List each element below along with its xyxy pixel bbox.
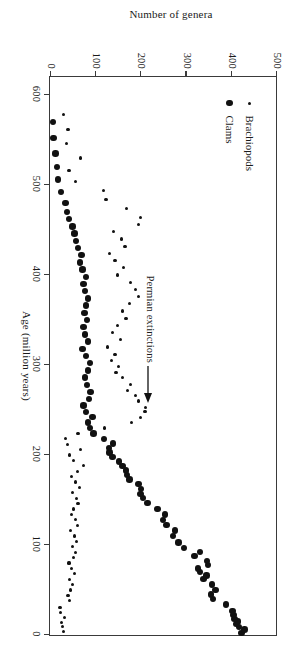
y-tick-label: 300 (181, 52, 192, 68)
legend-item-clams: Clams (221, 100, 241, 171)
data-point-brachiopods (75, 496, 78, 499)
data-point-brachiopods (67, 593, 70, 596)
y-tick-label: 200 (136, 52, 147, 68)
data-point-brachiopods (76, 502, 79, 505)
y-tick (185, 71, 186, 76)
x-tick (44, 274, 49, 275)
data-point-clams (116, 458, 122, 464)
annotation-text: Permian extinctions (145, 275, 156, 363)
data-point-clams (197, 549, 203, 555)
y-tick-label: 500 (272, 52, 283, 68)
x-tick (44, 94, 49, 95)
arrow-right-icon (141, 365, 155, 405)
data-point-clams (80, 324, 86, 330)
legend-label-brachiopods: Brachiopods (244, 115, 256, 171)
data-point-clams (82, 288, 88, 294)
y-axis-label: Number of genera (71, 8, 271, 20)
data-point-brachiopods (104, 197, 107, 200)
data-point-clams (229, 607, 235, 613)
x-axis-label: Age (million years) (21, 76, 33, 636)
data-point-brachiopods (73, 534, 76, 537)
data-point-brachiopods (59, 610, 62, 613)
data-point-clams (154, 505, 160, 511)
scanned-page: 0100200300400500600 0100200300400500 Age… (0, 0, 298, 667)
data-point-brachiopods (74, 480, 77, 483)
data-point-brachiopods (71, 545, 74, 548)
data-point-brachiopods (121, 309, 124, 312)
data-point-clams (82, 374, 88, 380)
data-point-clams (50, 118, 56, 124)
data-point-clams (71, 230, 77, 236)
data-point-clams (85, 338, 91, 344)
data-point-clams (78, 252, 84, 258)
data-point-brachiopods (79, 156, 82, 159)
data-point-brachiopods (117, 365, 120, 368)
data-point-clams (144, 499, 150, 505)
x-tick (44, 454, 49, 455)
data-point-brachiopods (60, 620, 63, 623)
data-point-brachiopods (121, 376, 124, 379)
data-point-clams (85, 295, 91, 301)
data-point-brachiopods (69, 588, 72, 591)
data-point-clams (62, 199, 68, 205)
data-point-brachiopods (70, 475, 73, 478)
data-point-brachiopods (126, 388, 129, 391)
legend-item-brachiopods: Brachiopods (241, 100, 261, 171)
data-point-brachiopods (139, 415, 142, 418)
data-point-brachiopods (110, 358, 113, 361)
y-tick (140, 71, 141, 76)
data-point-brachiopods (103, 426, 106, 429)
legend-marker-large-dot-icon (226, 100, 232, 106)
data-point-brachiopods (70, 512, 73, 515)
data-point-clams (110, 440, 116, 446)
data-point-clams (241, 626, 247, 632)
data-point-brachiopods (134, 287, 137, 290)
data-point-brachiopods (61, 625, 64, 628)
data-point-clams (172, 527, 178, 533)
data-point-brachiopods (68, 599, 71, 602)
data-point-clams (80, 402, 86, 408)
data-point-brachiopods (70, 566, 73, 569)
y-tick (231, 71, 232, 76)
data-point-brachiopods (125, 206, 128, 209)
data-point-clams (81, 309, 87, 315)
x-tick (44, 184, 49, 185)
data-point-brachiopods (66, 442, 69, 445)
data-point-clams (80, 280, 86, 286)
data-point-clams (82, 331, 88, 337)
data-point-brachiopods (112, 230, 115, 233)
data-point-brachiopods (79, 448, 82, 451)
y-tick-label: 0 (46, 63, 57, 68)
data-point-brachiopods (143, 410, 146, 413)
data-point-brachiopods (120, 237, 123, 240)
data-point-clams (162, 511, 168, 517)
data-point-brachiopods (111, 331, 114, 334)
data-point-brachiopods (137, 399, 140, 402)
annotation-permian-extinctions: Permian extinctions (145, 259, 156, 363)
data-point-brachiopods (74, 550, 77, 553)
legend: Brachiopods Clams (221, 100, 261, 171)
data-point-brachiopods (67, 127, 70, 130)
data-point-brachiopods (58, 605, 61, 608)
data-point-clams (89, 414, 95, 420)
data-point-brachiopods (69, 529, 72, 532)
y-tick (50, 71, 51, 76)
y-tick (95, 71, 96, 76)
y-tick (276, 71, 277, 76)
data-point-clams (58, 189, 64, 195)
data-point-brachiopods (139, 215, 142, 218)
data-point-brachiopods (144, 405, 147, 408)
data-point-brachiopods (124, 316, 127, 319)
data-point-clams (101, 435, 107, 441)
data-point-clams (52, 150, 58, 156)
data-point-brachiopods (114, 370, 117, 373)
y-tick-label: 100 (91, 52, 102, 68)
data-point-clams (87, 388, 93, 394)
data-point-brachiopods (82, 464, 85, 467)
data-point-clams (83, 408, 89, 414)
data-point-brachiopods (75, 539, 78, 542)
data-point-brachiopods (123, 244, 126, 247)
data-point-brachiopods (67, 169, 70, 172)
data-point-brachiopods (78, 485, 81, 488)
data-point-clams (75, 244, 81, 250)
